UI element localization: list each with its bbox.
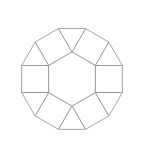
- geometric-net-diagram: [0, 0, 144, 160]
- square-right: [95, 66, 122, 93]
- figure-canvas: [0, 0, 144, 160]
- square-left: [22, 66, 49, 93]
- faces-layer: [22, 29, 123, 130]
